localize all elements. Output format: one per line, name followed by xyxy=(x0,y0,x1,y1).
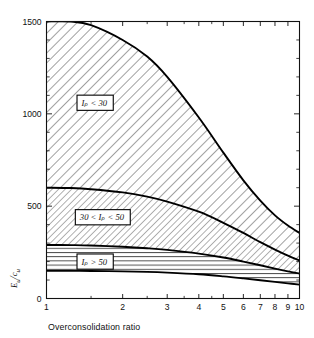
x-tick-label-6: 6 xyxy=(241,302,246,312)
x-tick-label-2: 2 xyxy=(120,302,125,312)
region-label-0: Iₚ < 30 xyxy=(77,95,113,110)
region-label-text-1: 30 < Iₚ < 50 xyxy=(79,212,125,222)
region-label-text-2: Iₚ > 50 xyxy=(81,257,108,267)
x-tick-label-1: 1 xyxy=(44,302,49,312)
x-tick-label-10: 10 xyxy=(295,302,305,312)
y-tick-label-1500: 1500 xyxy=(22,17,41,27)
y-tick-label-0: 0 xyxy=(37,294,42,304)
y-axis-title: Eu/cu xyxy=(8,269,22,290)
x-tick-label-9: 9 xyxy=(286,302,291,312)
y-tick-label-1000: 1000 xyxy=(22,109,41,119)
x-tick-label-4: 4 xyxy=(196,302,201,312)
region-label-1: 30 < Iₚ < 50 xyxy=(75,210,130,225)
x-tick-label-8: 8 xyxy=(273,302,278,312)
region-label-text-0: Iₚ < 30 xyxy=(81,98,108,108)
y-axis-denominator-sub: u xyxy=(14,269,22,273)
x-axis-title-text: Overconsolidation ratio xyxy=(48,322,140,332)
chart-figure: 12345678910050010001500 Iₚ < 3030 < Iₚ <… xyxy=(0,0,314,338)
region-label-2: Iₚ > 50 xyxy=(77,254,113,269)
x-tick-label-7: 7 xyxy=(258,302,263,312)
x-tick-label-5: 5 xyxy=(221,302,226,312)
y-axis-title-text: Eu/cu xyxy=(8,269,22,290)
x-axis-title: Overconsolidation ratio xyxy=(48,322,140,332)
x-tick-label-3: 3 xyxy=(165,302,170,312)
eu-cu-vs-ocr-chart: 12345678910050010001500 Iₚ < 3030 < Iₚ <… xyxy=(0,0,314,338)
y-tick-label-500: 500 xyxy=(27,201,42,211)
